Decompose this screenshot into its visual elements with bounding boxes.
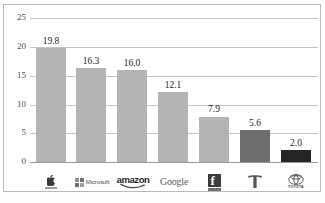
x-category-amazon[interactable]: amazon: [114, 170, 152, 194]
x-category-facebook[interactable]: f: [199, 170, 229, 194]
apple-icon: [47, 175, 56, 186]
bar-facebook[interactable]: [199, 117, 229, 163]
value-label-google: 12.1: [158, 81, 188, 91]
microsoft-logo: Microsoft: [75, 178, 109, 187]
bar-google[interactable]: [158, 92, 188, 162]
amazon-smile-icon: [120, 183, 146, 189]
y-tick-15: 15: [4, 71, 26, 80]
apple-logo-underbar: [45, 187, 57, 189]
gridline-15: [30, 76, 318, 77]
value-label-toyota: 2.0: [281, 139, 311, 149]
amazon-logo: amazon: [117, 175, 150, 190]
bar-amazon[interactable]: [117, 70, 147, 162]
value-label-microsoft: 16.3: [76, 57, 106, 67]
y-tick-10: 10: [4, 100, 26, 109]
bar-chart: 25 20 15 10 5 0 19.8 16.3 16.0 12.1 7.9 …: [0, 0, 325, 203]
toyota-logo: TOYOTA: [288, 174, 304, 190]
bar-apple[interactable]: [36, 48, 66, 162]
bar-microsoft[interactable]: [76, 68, 106, 162]
bar-tesla[interactable]: [240, 130, 270, 162]
apple-logo: [45, 175, 57, 189]
x-category-toyota[interactable]: TOYOTA: [281, 170, 311, 194]
microsoft-wordmark: Microsoft: [86, 179, 109, 185]
google-wordmark-icon: Google: [160, 177, 188, 187]
gridline-25: [30, 18, 318, 19]
value-label-amazon: 16.0: [117, 59, 147, 69]
y-tick-5: 5: [4, 128, 26, 137]
microsoft-squares-icon: [75, 178, 84, 187]
facebook-logo-underbar: [208, 188, 221, 191]
toyota-ellipses-icon: [288, 174, 304, 185]
x-axis-line: [30, 162, 318, 163]
y-tick-0: 0: [4, 157, 26, 166]
x-category-google[interactable]: Google: [155, 170, 193, 194]
facebook-f-icon: f: [208, 174, 221, 187]
y-tick-25: 25: [4, 13, 26, 22]
tesla-t-icon: [247, 175, 263, 189]
x-category-apple[interactable]: [36, 170, 66, 194]
x-category-microsoft[interactable]: Microsoft: [71, 170, 113, 194]
facebook-logo: f: [208, 174, 221, 191]
toyota-wordmark: TOYOTA: [288, 186, 304, 190]
bar-toyota[interactable]: [281, 150, 311, 162]
value-label-tesla: 5.6: [240, 119, 270, 129]
gridline-20: [30, 47, 318, 48]
y-tick-20: 20: [4, 42, 26, 51]
value-label-facebook: 7.9: [199, 105, 229, 115]
x-category-tesla[interactable]: [240, 170, 270, 194]
facebook-f-glyph: f: [211, 173, 215, 188]
value-label-apple: 19.8: [36, 37, 66, 47]
